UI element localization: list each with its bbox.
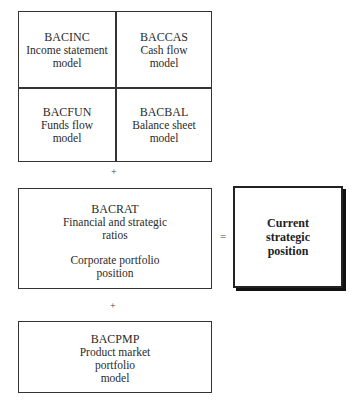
- bacrat-box: BACRAT Financial and strategic ratios Co…: [18, 188, 212, 289]
- financial-models-grid: BACINC Income statement model BACCAS Cas…: [18, 11, 212, 162]
- cell-code: BACCAS: [140, 31, 188, 44]
- cell-code: BACINC: [44, 31, 89, 44]
- box-label-line: portfolio: [95, 359, 135, 372]
- cell-label-line: model: [150, 57, 179, 70]
- box-label-line: Product market: [80, 346, 151, 359]
- result-label-line: Current: [267, 216, 309, 230]
- plus-operator: +: [110, 300, 116, 311]
- cell-label-line: Balance sheet: [132, 119, 196, 132]
- result-label-line: position: [268, 244, 309, 258]
- cell-code: BACBAL: [140, 106, 189, 119]
- cell-bacfun: BACFUN Funds flow model: [19, 88, 115, 163]
- cell-label-line: Funds flow: [41, 119, 93, 132]
- box-label-line: ratios: [102, 229, 128, 242]
- box-code: BACPMP: [91, 333, 140, 346]
- bacpmp-box: BACPMP Product market portfolio model: [18, 321, 212, 393]
- box-label-line: Financial and strategic: [63, 216, 167, 229]
- cell-code: BACFUN: [43, 106, 92, 119]
- box-label-line: model: [101, 372, 130, 385]
- cell-label-line: model: [53, 57, 82, 70]
- equals-operator: =: [220, 230, 226, 242]
- plus-operator: +: [111, 166, 117, 177]
- cell-label-line: model: [150, 132, 179, 145]
- box-code: BACRAT: [91, 203, 138, 216]
- cell-label-line: model: [53, 132, 82, 145]
- cell-bacbal: BACBAL Balance sheet model: [116, 88, 212, 163]
- cell-label-line: Cash flow: [141, 44, 188, 57]
- box-label-line: position: [96, 267, 133, 280]
- cell-label-line: Income statement: [26, 44, 107, 57]
- current-strategic-position-box: Current strategic position: [233, 186, 343, 288]
- result-label-line: strategic: [266, 230, 310, 244]
- box-label-line: Corporate portfolio: [70, 254, 159, 267]
- cell-bacinc: BACINC Income statement model: [19, 12, 115, 87]
- cell-baccas: BACCAS Cash flow model: [116, 12, 212, 87]
